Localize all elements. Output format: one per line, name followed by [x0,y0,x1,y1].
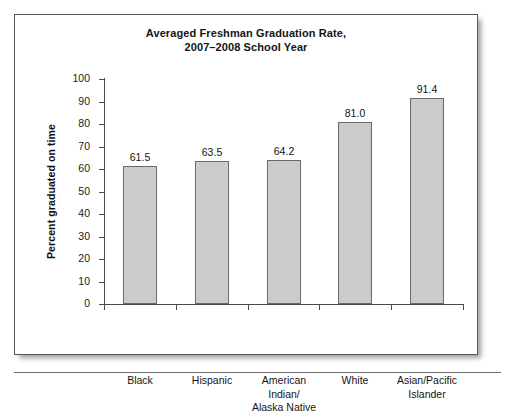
x-category-label-line: White [319,374,391,388]
bar: 81.0 [338,122,372,304]
y-tick-label: 80 [78,117,90,129]
bar-value-label: 61.5 [130,151,150,163]
x-category-label: Black [104,374,176,388]
chart-title: Averaged Freshman Graduation Rate, 2007–… [15,26,477,54]
x-category-label: White [319,374,391,388]
x-category-label-line: Alaska Native [248,401,320,415]
y-tick: 10 [99,282,104,283]
y-tick: 50 [99,192,104,193]
y-tick: 70 [99,147,104,148]
footer-divider [14,372,501,373]
x-category-label-line: Islander [391,388,463,402]
chart-panel: Averaged Freshman Graduation Rate, 2007–… [14,14,478,355]
y-tick: 30 [99,237,104,238]
x-category-label-line: Asian/Pacific [391,374,463,388]
y-tick-label: 40 [78,207,90,219]
y-tick: 100 [99,79,104,80]
chart-title-line-1: Averaged Freshman Graduation Rate, [15,26,477,40]
y-tick-label: 50 [78,185,90,197]
x-category-label-line: Black [104,374,176,388]
y-tick-label: 60 [78,162,90,174]
y-tick: 60 [99,169,104,170]
x-category-label-line: American [248,374,320,388]
y-tick: 80 [99,124,104,125]
bar-value-label: 64.2 [274,145,294,157]
bar-value-label: 81.0 [345,107,365,119]
plot-area: 1009080706050403020100 61.563.564.281.09… [104,79,463,304]
x-category-label: Hispanic [176,374,248,388]
x-category-label: Asian/PacificIslander [391,374,463,401]
y-axis-title: Percent graduated on time [44,79,58,304]
y-tick: 20 [99,259,104,260]
y-tick-label: 10 [78,275,90,287]
y-tick-label: 30 [78,230,90,242]
x-tick [104,304,105,310]
y-axis-line [104,78,105,305]
chart-title-line-2: 2007–2008 School Year [15,40,477,54]
bar-value-label: 91.4 [417,83,437,95]
y-tick-label: 100 [72,72,90,84]
bar-value-label: 63.5 [202,146,222,158]
bar: 64.2 [267,160,301,304]
x-category-label: AmericanIndian/Alaska Native [248,374,320,415]
y-tick-label: 20 [78,252,90,264]
bar: 61.5 [123,166,157,304]
y-tick-label: 70 [78,140,90,152]
bar: 91.4 [410,98,444,304]
x-axis-line [104,304,463,305]
y-tick: 40 [99,214,104,215]
y-tick-label: 0 [84,297,90,309]
x-tick [319,304,320,310]
x-tick [391,304,392,310]
x-tick [248,304,249,310]
x-tick [463,304,464,310]
x-tick [176,304,177,310]
x-category-label-line: Hispanic [176,374,248,388]
y-tick: 90 [99,102,104,103]
x-category-label-line: Indian/ [248,388,320,402]
bar: 63.5 [195,161,229,304]
y-tick-label: 90 [78,95,90,107]
